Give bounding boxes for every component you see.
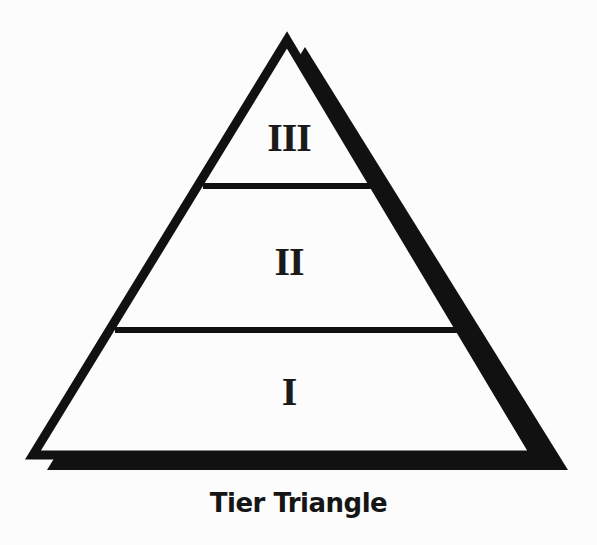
tier-label-iii: III xyxy=(267,118,311,158)
diagram-caption: Tier Triangle xyxy=(210,488,387,518)
tier-label-ii: II xyxy=(274,242,303,282)
tier-label-i: I xyxy=(282,372,297,412)
tier-triangle-diagram: III II I Tier Triangle xyxy=(0,0,597,545)
